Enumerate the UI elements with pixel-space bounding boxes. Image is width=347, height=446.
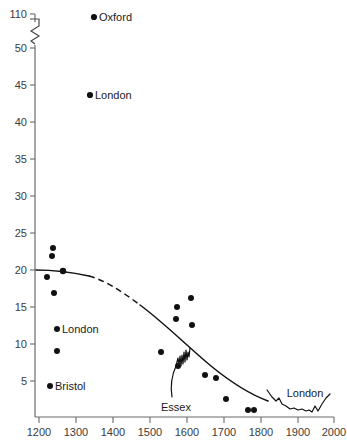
x-tick-label-1700: 1700 — [212, 426, 236, 438]
y-tick-label-5: 5 — [21, 375, 27, 387]
data-point[interactable] — [174, 304, 180, 310]
label-london-medieval: London — [95, 89, 132, 101]
label-oxford: Oxford — [99, 11, 132, 23]
data-points-group — [44, 14, 257, 413]
data-point[interactable] — [223, 396, 229, 402]
scatter-plot-canvas: 110 50 45 40 35 30 25 20 15 10 5 — [0, 0, 347, 446]
essex-series-group: Essex — [161, 348, 191, 413]
point-labels-group: Oxford London London Bristol — [55, 11, 132, 392]
y-tick-label-15: 15 — [15, 301, 27, 313]
london-series-label: London — [287, 387, 324, 399]
data-point[interactable] — [158, 349, 164, 355]
x-tick-label-1600: 1600 — [175, 426, 199, 438]
x-tick-label-1800: 1800 — [249, 426, 273, 438]
data-point-oxford[interactable] — [91, 14, 97, 20]
london-series-group: London — [267, 387, 330, 412]
y-tick-label-20: 20 — [15, 264, 27, 276]
essex-line — [171, 348, 190, 397]
data-point[interactable] — [175, 363, 181, 369]
data-point[interactable] — [60, 268, 66, 274]
data-point[interactable] — [44, 274, 50, 280]
x-tick-label-1900: 1900 — [286, 426, 310, 438]
y-tick-label-50: 50 — [15, 42, 27, 54]
x-tick-label-1500: 1500 — [138, 426, 162, 438]
data-point[interactable] — [202, 372, 208, 378]
y-tick-label-110: 110 — [9, 8, 27, 20]
data-point-bristol[interactable] — [47, 383, 53, 389]
label-london-small: London — [62, 323, 99, 335]
y-tick-label-30: 30 — [15, 190, 27, 202]
y-tick-label-45: 45 — [15, 79, 27, 91]
x-ticks-group: 1200 1300 1400 1500 1600 1700 1800 1900 … — [27, 417, 346, 438]
data-point-london-medieval[interactable] — [87, 92, 93, 98]
y-tick-label-40: 40 — [15, 116, 27, 128]
trend-line-segment-dashed — [89, 276, 140, 305]
data-point[interactable] — [251, 407, 257, 413]
data-point[interactable] — [51, 290, 57, 296]
data-point[interactable] — [213, 375, 219, 381]
data-point[interactable] — [54, 348, 60, 354]
data-point[interactable] — [49, 253, 55, 259]
data-point-london-small[interactable] — [54, 326, 60, 332]
label-bristol: Bristol — [55, 380, 86, 392]
data-point[interactable] — [173, 316, 179, 322]
data-point[interactable] — [245, 407, 251, 413]
essex-series-label: Essex — [161, 401, 191, 413]
y-ticks-group: 110 50 45 40 35 30 25 20 15 10 5 — [9, 8, 35, 387]
data-point[interactable] — [50, 245, 56, 251]
axis-break-icon — [30, 19, 39, 44]
x-tick-label-1200: 1200 — [27, 426, 51, 438]
y-tick-label-10: 10 — [15, 338, 27, 350]
y-tick-label-25: 25 — [15, 227, 27, 239]
x-tick-label-1400: 1400 — [101, 426, 125, 438]
x-tick-label-2000: 2000 — [322, 426, 346, 438]
data-point[interactable] — [188, 295, 194, 301]
data-point[interactable] — [189, 322, 195, 328]
y-tick-label-35: 35 — [15, 153, 27, 165]
chart-figure: 110 50 45 40 35 30 25 20 15 10 5 — [0, 0, 347, 446]
x-tick-label-1300: 1300 — [64, 426, 88, 438]
